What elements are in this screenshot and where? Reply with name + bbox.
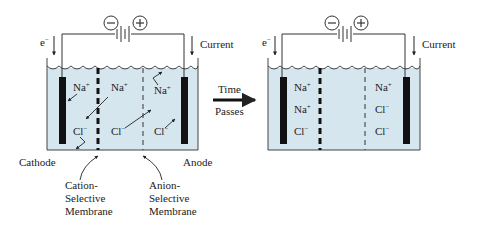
water	[268, 68, 420, 150]
time-label: Time	[218, 83, 241, 95]
electrodialysis-diagram: e− Current Na+ Na+ Na+ Cl− Cl− Cl− Ca	[0, 0, 480, 228]
cation-membrane-label: Cation- Selective Membrane	[65, 179, 113, 217]
current-label: Current	[422, 38, 456, 50]
anode-label: Anode	[183, 156, 212, 168]
battery-icon	[117, 26, 129, 42]
anode-electrode	[181, 77, 188, 144]
electron-label: e−	[262, 36, 271, 48]
minus-terminal-icon	[104, 16, 118, 30]
minus-terminal-icon	[325, 16, 339, 30]
plus-terminal-icon	[354, 16, 368, 30]
left-cell: e− Current Na+ Na+ Na+ Cl− Cl− Cl− Ca	[19, 16, 234, 217]
plus-terminal-icon	[133, 16, 147, 30]
anion-membrane-label: Anion- Selective Membrane	[149, 179, 197, 217]
anode-electrode	[403, 77, 410, 144]
current-label: Current	[200, 38, 234, 50]
time-passes-transition: Time Passes	[213, 83, 255, 117]
passes-label: Passes	[215, 105, 244, 117]
cathode-label: Cathode	[19, 156, 56, 168]
anion-membrane-pointer-icon	[143, 156, 162, 180]
cathode-electrode	[280, 77, 287, 144]
cation-membrane-pointer-icon	[80, 156, 98, 180]
electron-label: e−	[40, 36, 49, 48]
cathode-electrode	[59, 77, 66, 144]
battery-icon	[339, 26, 351, 42]
right-cell: e− Current Na+ Na+ Cl− Na+ Cl− Cl−	[262, 16, 456, 150]
